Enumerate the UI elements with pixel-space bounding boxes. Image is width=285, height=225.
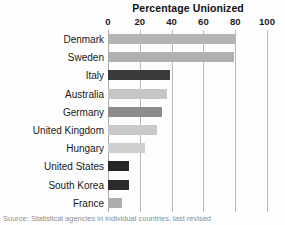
bar-rows: DenmarkSwedenItalyAustraliaGermanyUnited… [0, 30, 285, 212]
x-tick-label-80: 80 [230, 16, 241, 27]
bar-united-states [108, 161, 129, 171]
bar-south-korea [108, 180, 129, 190]
bar-row: France [0, 194, 285, 212]
x-axis-tick-labels: 020406080100 [0, 16, 285, 29]
bar-row: United States [0, 157, 285, 175]
category-label: United States [44, 161, 104, 172]
x-tick-label-0: 0 [105, 16, 110, 27]
category-label: Italy [86, 70, 104, 81]
bar-france [108, 198, 122, 208]
category-label: Australia [65, 88, 104, 99]
category-label: Denmark [63, 34, 104, 45]
category-label: Germany [63, 106, 104, 117]
bar-hungary [108, 143, 145, 153]
x-tick-label-100: 100 [259, 16, 275, 27]
category-label: United Kingdom [33, 125, 104, 136]
bar-row: Hungary [0, 139, 285, 157]
category-label: France [73, 197, 104, 208]
bar-germany [108, 107, 162, 117]
category-label: Sweden [68, 52, 104, 63]
bar-united-kingdom [108, 125, 157, 135]
x-tick-label-40: 40 [166, 16, 177, 27]
bar-row: Italy [0, 66, 285, 84]
category-label: Hungary [66, 143, 104, 154]
bar-row: Sweden [0, 48, 285, 66]
category-label: South Korea [48, 179, 104, 190]
bar-row: Australia [0, 85, 285, 103]
bar-row: United Kingdom [0, 121, 285, 139]
bar-row: Germany [0, 103, 285, 121]
bar-row: South Korea [0, 176, 285, 194]
x-tick-label-60: 60 [198, 16, 209, 27]
bar-sweden [108, 52, 234, 62]
chart-figure: Percentage Unionized 020406080100 Denmar… [0, 0, 285, 225]
bar-australia [108, 89, 167, 99]
bar-denmark [108, 34, 235, 44]
chart-title: Percentage Unionized [108, 2, 268, 14]
bar-row: Denmark [0, 30, 285, 48]
bar-italy [108, 70, 170, 80]
x-tick-label-20: 20 [135, 16, 146, 27]
source-note: Source: Statistical agencies in individu… [3, 214, 285, 223]
